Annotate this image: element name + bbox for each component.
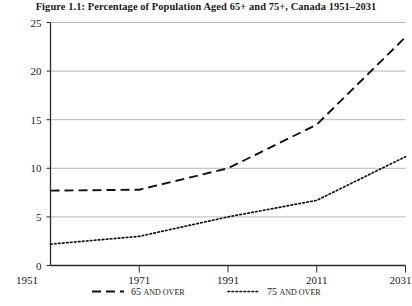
y-axis-tick-label: 0 (36, 260, 42, 272)
y-axis-tick-label: 5 (36, 211, 42, 223)
x-axis-tick-label: 2011 (306, 274, 328, 286)
x-axis-tick-labels: 19511971199120112031 (16, 274, 412, 286)
axis-lines (51, 23, 406, 266)
y-axis-tick-label: 15 (31, 114, 43, 126)
y-axis-tick-label: 10 (31, 162, 43, 174)
figure-container: Figure 1.1: Percentage of Population Age… (0, 0, 412, 306)
series-line-65-and-over (51, 37, 406, 191)
x-axis-ticks (139, 266, 405, 273)
legend-label-65-and-over: 65 AND OVER (131, 286, 185, 297)
line-chart: 0510152025 19511971199120112031 65 AND O… (0, 0, 412, 306)
x-axis-tick-label: 1991 (217, 274, 239, 286)
x-axis-tick-label: 1971 (128, 274, 150, 286)
chart-legend: 65 AND OVER75 AND OVER (92, 286, 321, 297)
series-line-75-and-over (51, 157, 406, 244)
y-axis-tick-labels: 0510152025 (31, 17, 51, 272)
data-series (51, 37, 406, 244)
x-axis-tick-label: 2031 (390, 274, 412, 286)
x-axis-tick-label: 1951 (16, 274, 38, 286)
gridlines (51, 23, 406, 217)
legend-label-75-and-over: 75 AND OVER (267, 286, 321, 297)
y-axis-tick-label: 25 (31, 17, 43, 29)
y-axis-tick-label: 20 (31, 65, 43, 77)
